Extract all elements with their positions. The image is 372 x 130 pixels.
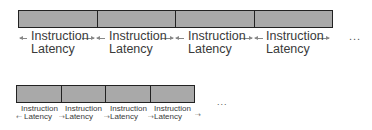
top-label-2: Instruction Latency: [109, 30, 167, 56]
bottom-segment-3: [106, 86, 151, 102]
bottom-segment-2: [62, 86, 107, 102]
top-label-1: Instruction Latency: [31, 30, 89, 56]
bottom-label-1: Instruction Latency: [21, 105, 58, 122]
top-segment-3: [176, 11, 255, 27]
label-line2: Latency: [110, 113, 147, 121]
arrow-left-icon: [176, 38, 184, 39]
bottom-label-3: Instruction Latency: [110, 105, 147, 122]
arrow-left-icon: [97, 38, 105, 39]
top-label-4: Instruction Latency: [266, 30, 324, 56]
arrow-left-icon: [20, 38, 27, 39]
top-segment-2: [98, 11, 177, 27]
label-line2: Latency: [154, 113, 191, 121]
top-segment-1: [19, 11, 98, 27]
top-ellipsis: ...: [349, 30, 361, 42]
bottom-segment-1: [17, 86, 62, 102]
label-line2: Latency: [188, 43, 246, 56]
label-line2: Latency: [21, 113, 58, 121]
bottom-ellipsis: ...: [217, 97, 228, 107]
label-line2: Latency: [65, 113, 102, 121]
bottom-latency-bar: [16, 85, 195, 103]
top-segment-4: [255, 11, 333, 27]
bottom-label-4: Instruction Latency: [154, 105, 191, 122]
bottom-segment-4: [151, 86, 195, 102]
arrow-left-icon: [255, 38, 263, 39]
label-line2: Latency: [31, 43, 89, 56]
label-line2: Latency: [266, 43, 324, 56]
arrow-tick-icon: ⇢: [195, 111, 201, 119]
top-latency-bar: [18, 10, 333, 28]
label-line2: Latency: [109, 43, 167, 56]
top-label-3: Instruction Latency: [188, 30, 246, 56]
bottom-label-2: Instruction Latency: [65, 105, 102, 122]
